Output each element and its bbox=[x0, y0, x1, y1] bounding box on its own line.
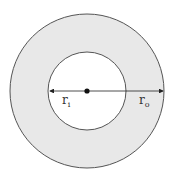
center-point bbox=[84, 88, 89, 93]
annulus-diagram: ri ro bbox=[0, 0, 173, 179]
